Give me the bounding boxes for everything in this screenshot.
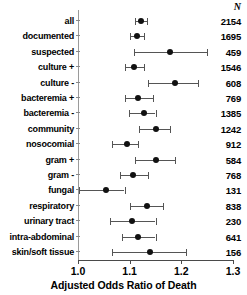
row-n-value: 1695 [221, 29, 241, 44]
row-axis-tick [76, 174, 80, 175]
ci-cap-upper [207, 49, 208, 56]
row-label: nosocomial [0, 137, 74, 152]
ci-cap-lower [129, 110, 130, 117]
forest-row: bacteremia +769 [0, 91, 247, 106]
odds-ratio-point [144, 203, 150, 209]
row-axis-tick [76, 236, 80, 237]
ci-cap-lower [135, 18, 136, 25]
forest-row: gram -768 [0, 168, 247, 183]
forest-plot: N all2154documented1695suspected459cultu… [0, 0, 247, 295]
odds-ratio-point [138, 18, 144, 24]
ci-cap-upper [156, 234, 157, 241]
row-label: all [0, 14, 74, 29]
ci-cap-upper [144, 64, 145, 71]
ci-cap-lower [112, 249, 113, 256]
forest-row: culture +1546 [0, 60, 247, 75]
forest-row: documented1695 [0, 29, 247, 44]
row-label: culture + [0, 60, 74, 75]
x-axis-line [78, 260, 233, 261]
odds-ratio-point [172, 80, 178, 86]
odds-ratio-point [134, 33, 140, 39]
x-axis-tick-label: 1.2 [161, 265, 201, 277]
row-label: gram - [0, 168, 74, 183]
odds-ratio-point [135, 234, 141, 240]
ci-cap-lower [110, 218, 111, 225]
row-axis-tick [76, 66, 80, 67]
x-axis-tick-label: 1.3 [213, 265, 247, 277]
x-axis-title: Adjusted Odds Ratio of Death [0, 279, 247, 291]
x-axis-tick [130, 260, 131, 264]
odds-ratio-point [167, 49, 173, 55]
row-n-value: 768 [226, 168, 241, 183]
confidence-interval-line [79, 190, 124, 191]
row-axis-tick [76, 128, 80, 129]
ci-cap-upper [153, 95, 154, 102]
row-axis-tick [76, 51, 80, 52]
row-label: urinary tract [0, 214, 74, 229]
ci-cap-lower [130, 33, 131, 40]
row-axis-tick [76, 143, 80, 144]
row-axis-tick [76, 251, 80, 252]
ci-cap-upper [186, 249, 187, 256]
x-axis-tick [233, 260, 234, 264]
row-axis-tick [76, 97, 80, 98]
row-n-value: 641 [226, 230, 241, 245]
row-axis-tick [76, 112, 80, 113]
row-n-value: 230 [226, 214, 241, 229]
row-axis-tick [76, 20, 80, 21]
row-label: gram + [0, 153, 74, 168]
ci-cap-upper [163, 203, 164, 210]
ci-cap-upper [198, 80, 199, 87]
row-axis-tick [76, 159, 80, 160]
ci-cap-upper [148, 172, 149, 179]
x-axis-tick-label: 1.0 [58, 265, 98, 277]
ci-cap-lower [125, 95, 126, 102]
x-axis-tick [78, 260, 79, 264]
odds-ratio-point [135, 95, 141, 101]
row-label: culture - [0, 76, 74, 91]
odds-ratio-point [103, 187, 109, 193]
row-label: skin/soft tissue [0, 245, 74, 260]
row-axis-tick [76, 220, 80, 221]
odds-ratio-point [130, 172, 136, 178]
forest-row: culture -608 [0, 76, 247, 91]
row-label: suspected [0, 45, 74, 60]
odds-ratio-point [129, 218, 135, 224]
odds-ratio-point [131, 64, 137, 70]
ci-cap-upper [156, 218, 157, 225]
row-n-value: 1385 [221, 106, 241, 121]
forest-row: respiratory838 [0, 199, 247, 214]
forest-row: intra-abdominal641 [0, 230, 247, 245]
row-axis-tick [76, 35, 80, 36]
row-n-value: 1546 [221, 60, 241, 75]
forest-row: gram +584 [0, 153, 247, 168]
forest-row: nosocomial912 [0, 137, 247, 152]
row-label: documented [0, 29, 74, 44]
ci-cap-lower [134, 49, 135, 56]
odds-ratio-point [153, 157, 159, 163]
row-n-value: 838 [226, 199, 241, 214]
forest-row: suspected459 [0, 45, 247, 60]
odds-ratio-point [147, 249, 153, 255]
x-axis-tick [181, 260, 182, 264]
row-n-value: 608 [226, 76, 241, 91]
odds-ratio-point [141, 110, 147, 116]
ci-cap-upper [156, 110, 157, 117]
row-n-value: 584 [226, 153, 241, 168]
forest-row: fungal131 [0, 183, 247, 198]
odds-ratio-point [124, 141, 130, 147]
row-label: fungal [0, 183, 74, 198]
row-axis-tick [76, 82, 80, 83]
row-n-value: 2154 [221, 14, 241, 29]
ci-cap-lower [112, 141, 113, 148]
forest-row: all2154 [0, 14, 247, 29]
odds-ratio-point [153, 126, 159, 132]
ci-cap-lower [120, 172, 121, 179]
ci-cap-lower [139, 126, 140, 133]
ci-cap-lower [135, 157, 136, 164]
row-n-value: 459 [226, 45, 241, 60]
row-label: community [0, 122, 74, 137]
ci-cap-upper [144, 33, 145, 40]
row-n-value: 1242 [221, 122, 241, 137]
row-label: bacteremia - [0, 106, 74, 121]
